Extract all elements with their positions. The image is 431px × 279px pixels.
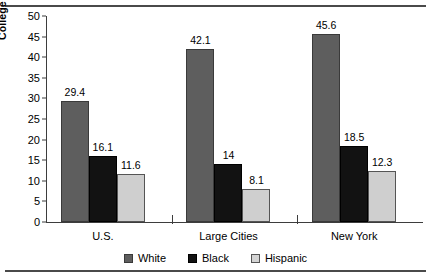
y-axis-tick-label: 50 <box>6 11 46 22</box>
bar-group: 42.1148.1 <box>172 16 298 222</box>
bar-hispanic-u-s <box>117 174 145 222</box>
bottom-divider-rule <box>5 270 426 272</box>
y-axis-tick-label: 0 <box>6 217 46 228</box>
y-axis-tick-label: 45 <box>6 31 46 42</box>
bar-value-label: 14 <box>223 150 235 161</box>
x-axis-group-label: New York <box>331 230 377 242</box>
bar-chart-figure: College Graduates (Percent) 051015202530… <box>0 0 431 279</box>
bar-group: 29.416.111.6 <box>46 16 172 222</box>
legend-swatch-black-icon <box>188 254 197 263</box>
x-axis-group-separator-tick <box>297 215 298 224</box>
legend-item-label: White <box>138 252 166 264</box>
x-axis-group-separator-tick <box>172 215 173 224</box>
bar-black-u-s <box>89 156 117 222</box>
bar-value-label: 16.1 <box>93 142 113 153</box>
top-divider-rule <box>5 5 426 7</box>
legend-item-hispanic[interactable]: Hispanic <box>251 252 307 264</box>
y-axis-tick-label: 10 <box>6 175 46 186</box>
y-axis-tick-label: 40 <box>6 52 46 63</box>
bar-value-label: 29.4 <box>65 87 85 98</box>
y-axis-tick-label: 5 <box>6 196 46 207</box>
bar-hispanic-new-york <box>368 171 396 222</box>
y-axis-tick-label: 20 <box>6 134 46 145</box>
bar-value-label: 8.1 <box>249 175 264 186</box>
bar-black-new-york <box>340 146 368 222</box>
legend-item-label: Hispanic <box>265 252 307 264</box>
x-axis-group-label: U.S. <box>92 230 113 242</box>
y-axis-tick-label: 25 <box>6 114 46 125</box>
bar-group: 45.618.512.3 <box>297 16 423 222</box>
legend-item-white[interactable]: White <box>124 252 166 264</box>
y-axis-tick-label: 30 <box>6 93 46 104</box>
bar-white-u-s <box>61 101 89 222</box>
bar-value-label: 45.6 <box>316 20 336 31</box>
legend-swatch-white-icon <box>124 254 133 263</box>
bar-value-label: 18.5 <box>344 132 364 143</box>
bar-black-large-cities <box>214 164 242 222</box>
bar-hispanic-large-cities <box>242 189 270 222</box>
y-axis-tick-label: 15 <box>6 155 46 166</box>
legend-item-label: Black <box>202 252 229 264</box>
plot-area: 0510152025303540455029.416.111.642.1148.… <box>46 16 423 222</box>
legend-item-black[interactable]: Black <box>188 252 229 264</box>
bar-white-large-cities <box>186 49 214 222</box>
bar-value-label: 42.1 <box>190 35 210 46</box>
legend-swatch-hispanic-icon <box>251 254 260 263</box>
bar-value-label: 11.6 <box>121 160 141 171</box>
bar-white-new-york <box>312 34 340 222</box>
bar-value-label: 12.3 <box>372 157 392 168</box>
x-axis-line <box>46 222 423 223</box>
y-axis-tick-label: 35 <box>6 72 46 83</box>
x-axis-group-label: Large Cities <box>199 230 258 242</box>
chart-legend: WhiteBlackHispanic <box>0 252 431 264</box>
